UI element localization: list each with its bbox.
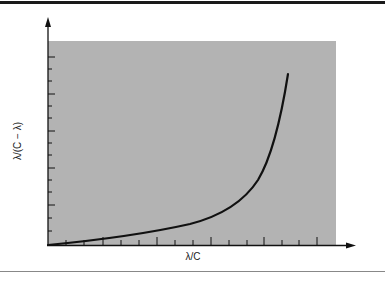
x-axis-label: λ/C <box>186 251 201 262</box>
y-axis-arrow-icon <box>45 17 51 27</box>
y-axis-label: λ/(C − λ) <box>12 122 23 160</box>
plot-background <box>48 41 336 245</box>
chart-plot <box>0 0 385 285</box>
bottom-border <box>0 271 385 272</box>
x-axis-arrow-icon <box>346 243 356 249</box>
